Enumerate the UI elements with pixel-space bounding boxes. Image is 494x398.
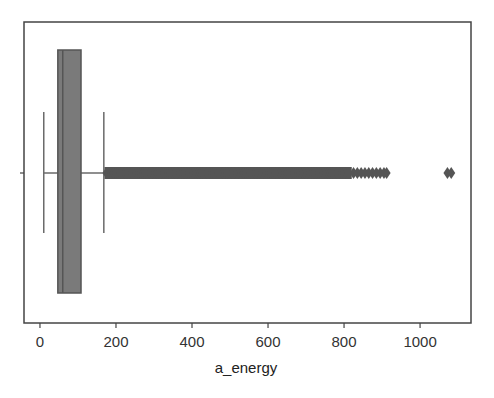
x-tick-label: 0 [36, 333, 44, 350]
plot-area [44, 50, 455, 293]
x-tick-label: 600 [256, 333, 281, 350]
x-tick-label: 800 [332, 333, 357, 350]
x-axis-label: a_energy [215, 359, 278, 376]
x-tick-label: 400 [179, 333, 204, 350]
box-plot-chart: 02004006008001000 a_energy [0, 0, 494, 398]
x-tick-label: 1000 [403, 333, 436, 350]
iqr-box [58, 50, 81, 293]
x-tick-label: 200 [103, 333, 128, 350]
x-axis-ticks: 02004006008001000 [36, 323, 437, 350]
